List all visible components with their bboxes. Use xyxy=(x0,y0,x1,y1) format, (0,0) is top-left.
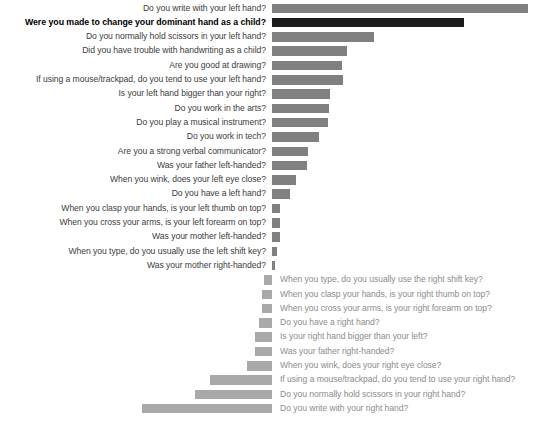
bar-right-hand xyxy=(259,318,272,328)
bar-right-hand xyxy=(142,404,272,414)
chart-row: Is your right hand bigger than your left… xyxy=(0,330,554,344)
chart-row: Do you write with your left hand? xyxy=(0,2,554,16)
chart-row: Were you made to change your dominant ha… xyxy=(0,16,554,30)
chart-row: Do you play a musical instrument? xyxy=(0,116,554,130)
bar-label: When you type, do you usually use the ri… xyxy=(280,273,483,286)
chart-row: Do you normally hold scissors in your le… xyxy=(0,30,554,44)
chart-row: Was your mother right-handed? xyxy=(0,259,554,273)
bar-label: When you clasp your hands, is your right… xyxy=(280,288,490,301)
chart-row: Do you write with your right hand? xyxy=(0,402,554,416)
bar-left-hand xyxy=(272,32,374,42)
bar-right-hand xyxy=(262,304,272,314)
bar-left-hand xyxy=(272,18,464,28)
bar-left-hand xyxy=(272,232,280,242)
chart-row: Do you have a right hand? xyxy=(0,316,554,330)
bar-right-hand xyxy=(210,375,272,385)
bar-label: Is your right hand bigger than your left… xyxy=(280,330,427,343)
bar-label: Do you have a right hand? xyxy=(280,316,380,329)
bar-left-hand xyxy=(272,189,290,199)
bar-label: Do you work in the arts? xyxy=(175,102,266,115)
chart-row: When you cross your arms, is your left f… xyxy=(0,216,554,230)
bar-left-hand xyxy=(272,175,296,185)
bar-left-hand xyxy=(272,147,308,157)
bar-label: When you wink, does your right eye close… xyxy=(280,359,441,372)
chart-row: When you type, do you usually use the le… xyxy=(0,245,554,259)
bar-right-hand xyxy=(255,332,272,342)
bar-right-hand xyxy=(195,390,272,400)
chart-row: When you type, do you usually use the ri… xyxy=(0,273,554,287)
bar-label: When you clasp your hands, is your left … xyxy=(61,202,266,215)
bar-label: When you cross your arms, is your right … xyxy=(280,302,492,315)
bar-label: If using a mouse/trackpad, do you tend t… xyxy=(36,73,266,86)
chart-row: When you wink, does your left eye close? xyxy=(0,173,554,187)
bar-right-hand xyxy=(264,275,272,285)
chart-row: Was your father left-handed? xyxy=(0,159,554,173)
bar-label: Do you write with your left hand? xyxy=(143,2,266,15)
bar-left-hand xyxy=(272,104,329,114)
chart-row: Is your left hand bigger than your right… xyxy=(0,87,554,101)
bar-left-hand xyxy=(272,132,319,142)
chart-row: When you clasp your hands, is your left … xyxy=(0,202,554,216)
bar-label: Do you have a left hand? xyxy=(172,187,266,200)
bar-label: Do you write with your right hand? xyxy=(280,402,408,415)
chart-row: Do you have a left hand? xyxy=(0,187,554,201)
bar-label: Do you play a musical instrument? xyxy=(136,116,266,129)
chart-row: Did you have trouble with handwriting as… xyxy=(0,44,554,58)
bar-label: When you type, do you usually use the le… xyxy=(68,245,266,258)
bar-right-hand xyxy=(247,361,272,371)
chart-row: Do you work in tech? xyxy=(0,130,554,144)
bar-left-hand xyxy=(272,4,528,14)
bar-right-hand xyxy=(262,290,272,300)
chart-row: When you clasp your hands, is your right… xyxy=(0,288,554,302)
chart-row: If using a mouse/trackpad, do you tend t… xyxy=(0,73,554,87)
bar-left-hand xyxy=(272,204,280,214)
chart-row: Are you a strong verbal communicator? xyxy=(0,145,554,159)
bar-label: Do you normally hold scissors in your le… xyxy=(86,30,266,43)
bar-right-hand xyxy=(255,347,272,357)
chart-row: Was your father right-handed? xyxy=(0,345,554,359)
bar-left-hand xyxy=(272,161,307,171)
chart-row: Do you normally hold scissors in your ri… xyxy=(0,388,554,402)
bar-label: When you cross your arms, is your left f… xyxy=(60,216,267,229)
bar-label: Do you work in tech? xyxy=(187,130,266,143)
bar-label: Was your father left-handed? xyxy=(157,159,266,172)
handedness-survey-bar-chart: Do you write with your left hand?Were yo… xyxy=(0,0,554,443)
chart-row: Are you good at drawing? xyxy=(0,59,554,73)
bar-left-hand xyxy=(272,75,343,85)
bar-label: Were you made to change your dominant ha… xyxy=(25,16,266,29)
chart-row: If using a mouse/trackpad, do you tend t… xyxy=(0,373,554,387)
bar-label: When you wink, does your left eye close? xyxy=(110,173,266,186)
bar-left-hand xyxy=(272,118,328,128)
chart-row: When you cross your arms, is your right … xyxy=(0,302,554,316)
chart-row: Was your mother left-handed? xyxy=(0,230,554,244)
bar-label: Was your mother right-handed? xyxy=(147,259,266,272)
bar-left-hand xyxy=(272,218,280,228)
bar-label: Is your left hand bigger than your right… xyxy=(119,87,266,100)
bar-label: Do you normally hold scissors in your ri… xyxy=(280,388,465,401)
chart-row: Do you work in the arts? xyxy=(0,102,554,116)
bar-label: Are you good at drawing? xyxy=(169,59,266,72)
bar-left-hand xyxy=(272,61,342,71)
bar-label: Did you have trouble with handwriting as… xyxy=(82,44,266,57)
bar-left-hand xyxy=(272,89,330,99)
bar-left-hand xyxy=(272,247,277,257)
bar-label: Was your mother left-handed? xyxy=(152,230,266,243)
chart-row: When you wink, does your right eye close… xyxy=(0,359,554,373)
bar-label: Was your father right-handed? xyxy=(280,345,394,358)
bar-label: If using a mouse/trackpad, do you tend t… xyxy=(280,373,515,386)
bar-label: Are you a strong verbal communicator? xyxy=(118,145,266,158)
bar-left-hand xyxy=(272,46,347,56)
bar-left-hand xyxy=(272,261,275,271)
